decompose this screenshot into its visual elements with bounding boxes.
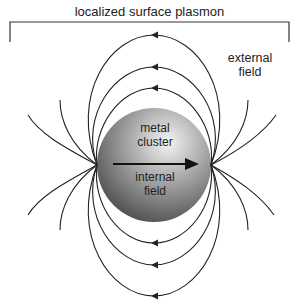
- metal-cluster-label: metal cluster: [115, 122, 195, 150]
- diagram-graphics: [0, 0, 299, 304]
- internal-label-line1: internal: [115, 171, 195, 185]
- plasmon-diagram: localized surface plasmon external field…: [0, 0, 299, 304]
- internal-label-line2: field: [115, 185, 195, 199]
- external-label-line2: field: [218, 65, 282, 79]
- metal-label-line1: metal: [115, 122, 195, 136]
- metal-label-line2: cluster: [115, 136, 195, 150]
- external-label-line1: external: [218, 51, 282, 65]
- bracket: [10, 22, 289, 42]
- external-field-label: external field: [218, 51, 282, 80]
- diagram-title: localized surface plasmon: [0, 5, 299, 20]
- internal-field-label: internal field: [115, 171, 195, 199]
